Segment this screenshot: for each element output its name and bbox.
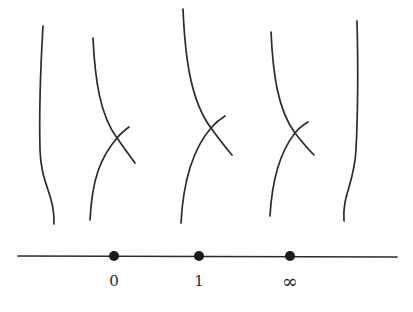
nodal-fiber-0 [90,38,135,220]
diagram-canvas: 0 1 ∞ [0,0,413,312]
fiber-branch-upper [93,38,135,163]
point-label-0: 0 [109,274,119,289]
fiber-branch-lower [270,122,308,216]
fiber-branch-lower [181,116,225,223]
point-infinity [285,251,295,261]
point-label-1: 1 [194,274,204,289]
smooth-fiber-left [40,26,54,224]
nodal-fiber-1 [181,9,232,223]
smooth-fiber-right [344,21,358,221]
fiber-branch-lower [90,127,129,220]
nodal-fiber-infinity [270,32,314,216]
point-1 [194,251,204,261]
diagram-svg [0,0,413,312]
base-line [18,256,397,257]
point-0 [109,251,119,261]
point-label-infinity: ∞ [282,272,298,291]
